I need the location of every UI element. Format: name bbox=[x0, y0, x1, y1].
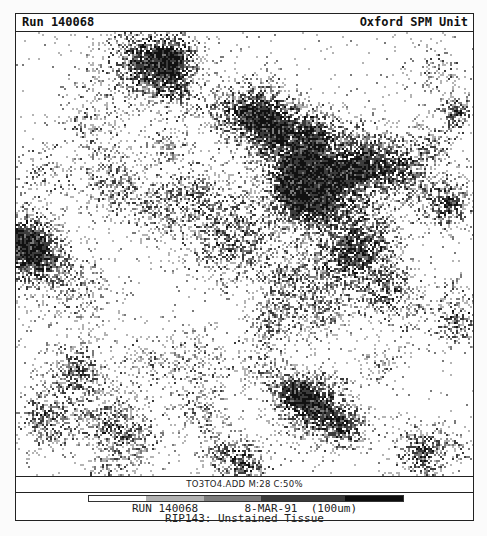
legend-segment-3 bbox=[261, 496, 345, 501]
legend-segment-4 bbox=[345, 496, 403, 501]
unit-label: Oxford SPM Unit bbox=[360, 14, 468, 31]
grayscale-legend-bar bbox=[88, 495, 404, 502]
header-bar: Run 140068 Oxford SPM Unit bbox=[16, 14, 473, 32]
legend-segment-1 bbox=[146, 496, 204, 501]
run-label: Run 140068 bbox=[22, 14, 94, 31]
density-map-canvas bbox=[16, 32, 473, 476]
density-map-image bbox=[16, 32, 473, 476]
legend-segment-2 bbox=[204, 496, 261, 501]
footer-panel: RUN 140068 8-MAR-91 (100um) RIP143: Unst… bbox=[16, 492, 473, 520]
sample-description: RIP143: Unstained Tissue bbox=[16, 513, 473, 524]
spm-map-frame: Run 140068 Oxford SPM Unit TO3TO4.ADD M:… bbox=[15, 13, 474, 521]
file-info-label: TO3TO4.ADD M:28 C:50% bbox=[16, 476, 473, 493]
legend-segment-0 bbox=[89, 496, 146, 501]
